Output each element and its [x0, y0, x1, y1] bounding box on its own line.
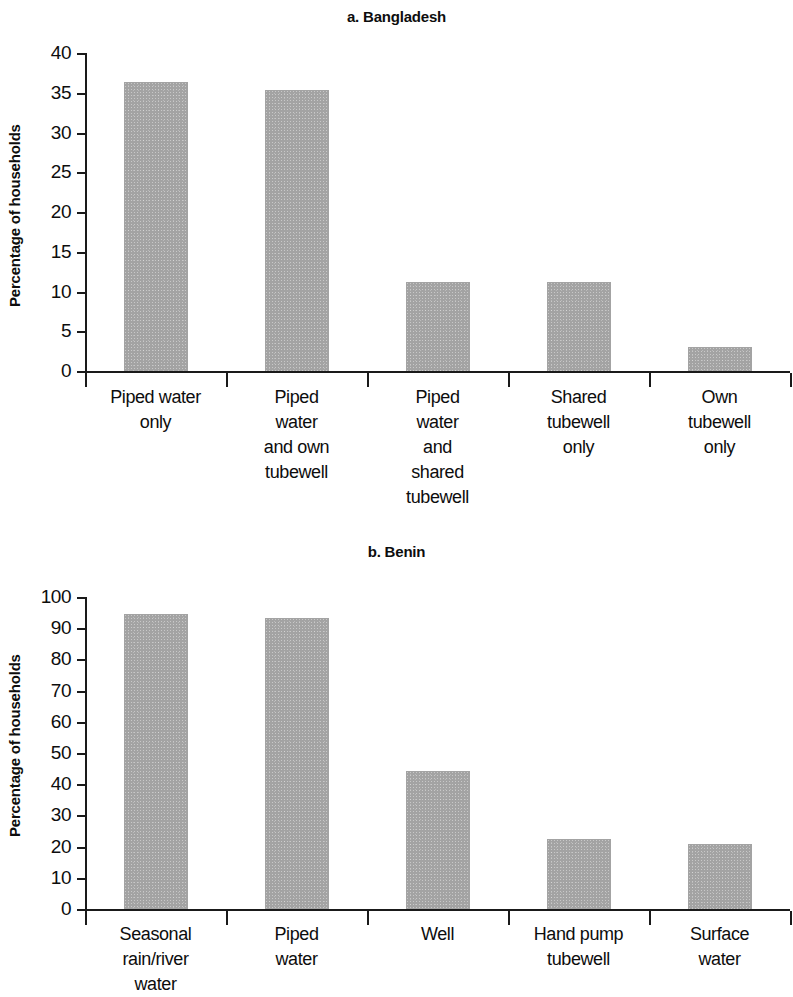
y-tick-label-b: 60: [15, 712, 71, 731]
x-tick-a: [790, 373, 792, 387]
y-tick-b: [77, 784, 85, 786]
x-label-line: only: [563, 437, 594, 457]
x-category-label-a-0: Piped wateronly: [85, 385, 226, 435]
y-tick-b: [77, 815, 85, 817]
y-tick-label-b: 70: [15, 681, 71, 700]
x-category-label-b-3: Hand pumptubewell: [508, 922, 649, 972]
y-tick-label-b: 40: [15, 774, 71, 793]
x-label-line: water: [275, 412, 317, 432]
x-label-line: Piped: [274, 924, 318, 944]
y-tick-a: [77, 53, 85, 55]
y-tick-label-a: 40: [15, 43, 71, 62]
plot-area-a: 0510152025303540Piped wateronlyPipedwate…: [0, 0, 793, 520]
y-axis-line-b: [85, 597, 87, 911]
y-tick-label-a: 35: [15, 83, 71, 102]
x-label-line: tubewell: [688, 412, 751, 432]
x-label-line: tubewell: [406, 487, 469, 507]
y-tick-b: [77, 722, 85, 724]
y-tick-a: [77, 292, 85, 294]
chart-panel-bangladesh: a. Bangladesh Percentage of households 0…: [0, 0, 793, 520]
y-tick-b: [77, 909, 85, 911]
x-label-line: only: [704, 437, 735, 457]
chart-panel-benin: b. Benin Percentage of households 010203…: [0, 520, 793, 997]
x-label-line: tubewell: [547, 949, 610, 969]
y-tick-b: [77, 597, 85, 599]
x-axis-line-b: [85, 909, 790, 911]
x-label-line: water: [698, 949, 740, 969]
x-label-line: water: [416, 412, 458, 432]
x-category-label-b-4: Surfacewater: [649, 922, 790, 972]
y-tick-a: [77, 252, 85, 254]
bar-b-1: [265, 618, 329, 909]
y-tick-label-b: 50: [15, 743, 71, 762]
x-label-line: only: [140, 412, 171, 432]
x-label-line: Piped: [415, 387, 459, 407]
y-tick-a: [77, 93, 85, 95]
y-tick-a: [77, 133, 85, 135]
y-tick-label-b: 80: [15, 649, 71, 668]
bar-b-2: [406, 771, 470, 909]
bar-b-4: [688, 844, 752, 909]
y-tick-label-b: 0: [15, 899, 71, 918]
x-category-label-a-3: Sharedtubewellonly: [508, 385, 649, 460]
y-tick-b: [77, 753, 85, 755]
x-axis-line-a: [85, 371, 790, 373]
x-category-label-a-4: Owntubewellonly: [649, 385, 790, 460]
x-tick-b: [790, 911, 792, 925]
x-label-line: and own: [264, 437, 329, 457]
y-tick-label-a: 15: [15, 242, 71, 261]
y-tick-label-a: 10: [15, 282, 71, 301]
x-label-line: Piped: [274, 387, 318, 407]
bar-a-0: [124, 82, 188, 371]
y-tick-b: [77, 847, 85, 849]
x-label-line: Well: [421, 924, 454, 944]
x-label-line: rain/river: [122, 949, 188, 969]
bar-a-3: [547, 282, 611, 371]
x-label-line: Shared: [551, 387, 607, 407]
y-tick-b: [77, 659, 85, 661]
y-tick-label-b: 90: [15, 618, 71, 637]
y-tick-b: [77, 628, 85, 630]
y-tick-label-a: 30: [15, 123, 71, 142]
x-category-label-b-2: Well: [367, 922, 508, 947]
y-tick-label-a: 5: [15, 321, 71, 340]
bar-a-1: [265, 90, 329, 371]
y-tick-b: [77, 691, 85, 693]
y-tick-label-b: 30: [15, 805, 71, 824]
bar-a-2: [406, 282, 470, 371]
y-axis-line-a: [85, 53, 87, 373]
x-label-line: Piped water: [110, 387, 201, 407]
x-label-line: Hand pump: [534, 924, 623, 944]
x-category-label-b-1: Pipedwater: [226, 922, 367, 972]
bar-a-4: [688, 347, 752, 371]
y-tick-label-b: 100: [15, 587, 71, 606]
y-tick-b: [77, 878, 85, 880]
x-label-line: tubewell: [265, 462, 328, 482]
x-label-line: Own: [702, 387, 738, 407]
x-label-line: Seasonal: [120, 924, 192, 944]
x-label-line: Surface: [690, 924, 749, 944]
y-tick-label-b: 10: [15, 868, 71, 887]
y-tick-a: [77, 331, 85, 333]
x-category-label-a-2: Pipedwaterandsharedtubewell: [367, 385, 508, 510]
x-label-line: shared: [411, 462, 464, 482]
x-category-label-b-0: Seasonalrain/riverwater: [85, 922, 226, 997]
y-tick-label-a: 0: [15, 361, 71, 380]
x-category-label-a-1: Pipedwaterand owntubewell: [226, 385, 367, 485]
x-label-line: water: [134, 974, 176, 994]
y-tick-label-a: 20: [15, 202, 71, 221]
y-tick-a: [77, 371, 85, 373]
y-tick-label-b: 20: [15, 837, 71, 856]
x-label-line: tubewell: [547, 412, 610, 432]
y-tick-a: [77, 172, 85, 174]
x-label-line: and: [423, 437, 452, 457]
y-tick-label-a: 25: [15, 162, 71, 181]
x-label-line: water: [275, 949, 317, 969]
y-tick-a: [77, 212, 85, 214]
plot-area-b: 0102030405060708090100Seasonalrain/river…: [0, 520, 793, 997]
bar-b-0: [124, 614, 188, 909]
bar-b-3: [547, 839, 611, 909]
